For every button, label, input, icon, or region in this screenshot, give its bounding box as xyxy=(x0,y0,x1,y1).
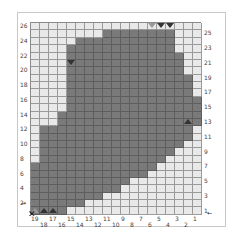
grid-cell xyxy=(166,30,175,37)
grid-cell xyxy=(40,30,49,37)
grid-cell xyxy=(139,82,148,89)
grid-cell xyxy=(31,119,40,126)
grid-cell xyxy=(175,156,184,163)
grid-cell xyxy=(157,156,166,163)
grid-cell xyxy=(112,156,121,163)
grid-cell xyxy=(31,171,40,178)
grid-cell xyxy=(184,45,193,52)
grid-cell xyxy=(139,126,148,133)
grid-cell xyxy=(40,134,49,141)
grid-cell xyxy=(184,207,193,214)
grid-cell xyxy=(49,134,58,141)
grid-cell xyxy=(148,178,157,185)
grid-cell xyxy=(49,148,58,155)
grid-cell xyxy=(94,89,103,96)
grid-cell xyxy=(148,82,157,89)
grid-cell xyxy=(58,67,67,74)
grid-cell xyxy=(40,163,49,170)
grid-cell xyxy=(103,207,112,214)
grid-cell xyxy=(94,126,103,133)
grid-cell xyxy=(139,112,148,119)
col-label-bottom: 12 xyxy=(94,222,102,228)
grid-cell xyxy=(175,141,184,148)
grid-cell xyxy=(121,207,130,214)
grid-cell xyxy=(148,148,157,155)
grid-cell xyxy=(49,89,58,96)
grid-cell xyxy=(193,67,202,74)
grid-cell xyxy=(94,134,103,141)
col-label-bottom: 3 xyxy=(175,216,179,222)
col-label-bottom: 1 xyxy=(193,216,197,222)
grid-cell xyxy=(130,112,139,119)
grid-cell xyxy=(31,23,40,30)
grid-cell xyxy=(130,163,139,170)
grid-cell xyxy=(112,119,121,126)
grid-cell xyxy=(157,119,166,126)
grid-cell xyxy=(85,67,94,74)
grid-cell xyxy=(175,193,184,200)
grid-cell xyxy=(148,207,157,214)
grid-cell xyxy=(130,134,139,141)
grid-cell xyxy=(121,134,130,141)
grid-cell xyxy=(112,97,121,104)
row-label-right: 9 xyxy=(204,149,208,155)
grid-cell xyxy=(103,67,112,74)
grid-cell xyxy=(31,53,40,60)
grid-cell xyxy=(67,23,76,30)
grid-cell xyxy=(67,97,76,104)
grid-cell xyxy=(193,60,202,67)
grid-cell xyxy=(130,193,139,200)
grid-cell xyxy=(85,134,94,141)
grid-cell xyxy=(76,134,85,141)
grid-cell xyxy=(58,30,67,37)
grid-cell xyxy=(193,82,202,89)
grid-cell xyxy=(166,60,175,67)
grid-cell xyxy=(166,171,175,178)
grid-cell xyxy=(157,82,166,89)
grid-cell xyxy=(166,207,175,214)
grid-cell xyxy=(40,75,49,82)
grid-cell xyxy=(94,67,103,74)
grid-cell xyxy=(49,156,58,163)
grid-cell xyxy=(148,171,157,178)
grid-cell xyxy=(166,200,175,207)
grid-cell xyxy=(76,207,85,214)
grid-cell xyxy=(193,178,202,185)
grid-cell xyxy=(103,45,112,52)
grid-cell xyxy=(175,178,184,185)
grid-cell xyxy=(112,53,121,60)
grid-cell xyxy=(157,53,166,60)
row-label-left: 22 xyxy=(20,53,28,59)
grid-cell xyxy=(121,82,130,89)
grid-cell xyxy=(31,200,40,207)
grid-cell xyxy=(49,171,58,178)
grid-cell xyxy=(139,171,148,178)
grid-cell xyxy=(67,178,76,185)
grid-cell xyxy=(175,171,184,178)
grid-cell xyxy=(94,23,103,30)
grid-cell xyxy=(148,193,157,200)
row-label-right: 25 xyxy=(204,30,212,36)
row-label-right: 21 xyxy=(204,60,212,66)
grid-cell xyxy=(49,45,58,52)
grid-cell xyxy=(175,104,184,111)
row-label-left: 8 xyxy=(20,156,24,162)
grid-cell xyxy=(67,126,76,133)
grid-cell xyxy=(130,119,139,126)
grid-cell xyxy=(103,193,112,200)
grid-cell xyxy=(184,134,193,141)
grid-cell xyxy=(40,82,49,89)
triangle-down-icon xyxy=(148,23,156,28)
grid-cell xyxy=(184,163,193,170)
grid-cell xyxy=(31,141,40,148)
grid-cell xyxy=(130,67,139,74)
grid-cell xyxy=(148,30,157,37)
col-label-bottom: 4 xyxy=(166,222,170,228)
grid-cell xyxy=(85,200,94,207)
grid-cell xyxy=(175,112,184,119)
grid-cell xyxy=(184,193,193,200)
grid-cell xyxy=(121,156,130,163)
grid-cell xyxy=(193,97,202,104)
grid-cell xyxy=(40,97,49,104)
knitting-grid xyxy=(30,22,201,214)
